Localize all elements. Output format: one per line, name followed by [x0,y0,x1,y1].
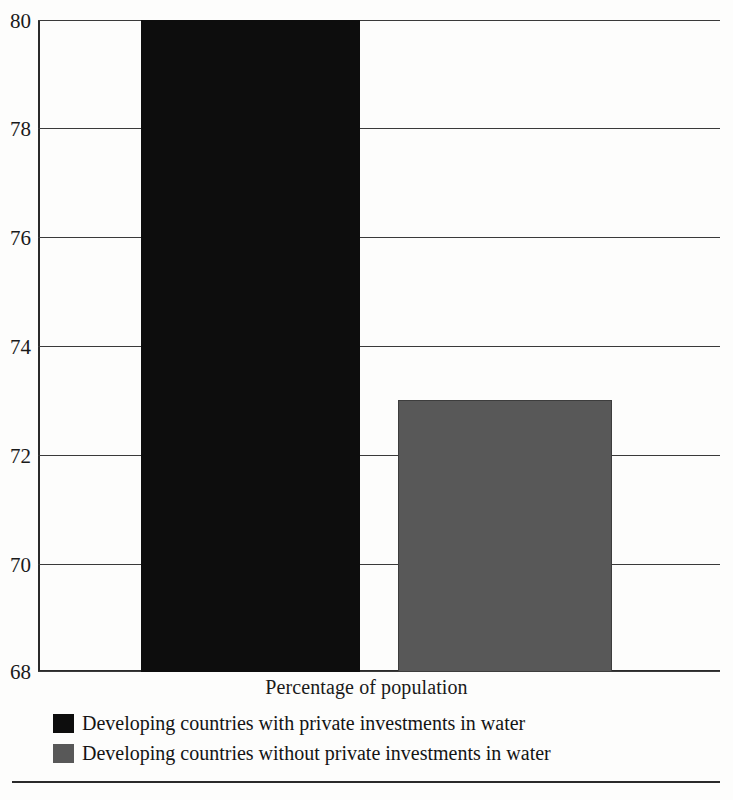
legend-label-0: Developing countries with private invest… [82,713,525,733]
legend-item-with-private-investments: Developing countries with private invest… [53,708,693,738]
y-tick-label-78: 78 [10,118,31,139]
legend: Developing countries with private invest… [53,708,693,768]
legend-swatch-icon-0 [53,714,74,733]
chart-figure: 80 78 76 74 72 70 68 Percentage of popul… [0,0,733,800]
legend-item-without-private-investments: Developing countries without private inv… [53,738,693,768]
bar-with-private-investments [141,20,360,672]
legend-label-1: Developing countries without private inv… [82,743,551,763]
y-tick-label-76: 76 [10,227,31,248]
y-tick-label-80: 80 [10,10,31,31]
bottom-rule-divider [12,781,720,783]
y-tick-label-72: 72 [10,445,31,466]
x-axis-caption: Percentage of population [0,676,733,699]
bar-without-private-investments [398,400,612,672]
plot-area: 80 78 76 74 72 70 68 [38,20,720,672]
y-tick-label-70: 70 [10,554,31,575]
legend-swatch-icon-1 [53,744,74,763]
y-tick-label-74: 74 [10,336,31,357]
